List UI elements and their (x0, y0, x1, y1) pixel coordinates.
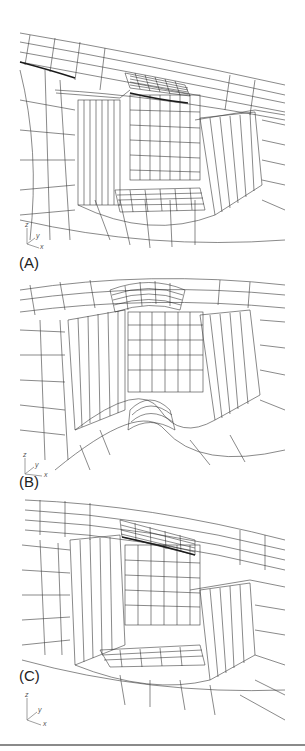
panel-label-c: (C) (19, 667, 40, 684)
bottom-rule (0, 744, 305, 746)
axis-z-label: z (24, 222, 29, 228)
panel-a: z y x (A) (0, 0, 305, 270)
axis-z-label: z (22, 452, 27, 458)
axis-triad-a: z y x (22, 222, 52, 250)
axis-triad-c: z y x (22, 690, 56, 726)
axis-x-label: x (43, 471, 48, 478)
panel-label-a: (A) (19, 254, 39, 271)
axis-x-label: x (39, 243, 44, 250)
axis-z-label: z (24, 691, 29, 698)
axis-y-label: y (34, 461, 39, 469)
axis-x-label: x (42, 720, 47, 726)
panel-label-b: (B) (19, 473, 39, 490)
panel-c: (C) z y x (0, 495, 305, 740)
finite-element-mesh-b (0, 270, 305, 480)
axis-y-label: y (37, 706, 42, 714)
axis-y-label: y (35, 232, 40, 240)
finite-element-mesh-a (0, 0, 305, 250)
panel-b: z y x (B) (0, 270, 305, 495)
